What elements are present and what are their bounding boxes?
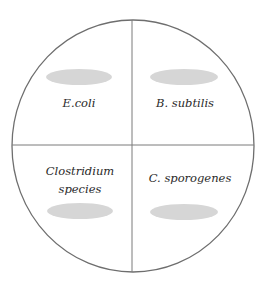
petri-dish-outline	[12, 20, 254, 272]
label-clostridium-line2: species	[59, 182, 102, 196]
colony-streak-b-subtilis	[150, 69, 218, 85]
petri-dish-diagram: E.coli B. subtilis Clostridium species C…	[0, 0, 266, 288]
label-c-sporogenes: C. sporogenes	[149, 171, 232, 185]
label-ecoli: E.coli	[62, 96, 96, 110]
colony-streak-clostridium	[47, 203, 113, 219]
colony-streak-c-sporogenes	[150, 204, 218, 220]
label-b-subtilis: B. subtilis	[155, 96, 214, 110]
label-clostridium-line1: Clostridium	[46, 164, 115, 178]
colony-streak-ecoli	[46, 69, 112, 85]
